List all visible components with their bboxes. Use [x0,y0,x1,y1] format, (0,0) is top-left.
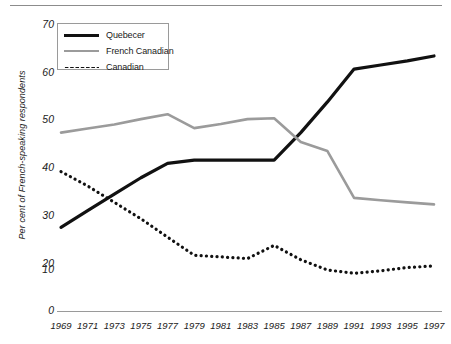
series-canadian [61,172,434,274]
series-quebecer [61,56,434,227]
legend-label-canadian: Canadian [106,62,144,72]
legend-label-french-canadian: French Canadian [106,46,174,56]
legend-item-canadian: Canadian [64,61,144,73]
legend-item-quebecer: Quebecer [64,29,145,41]
y-tick-label-10: 10 [28,263,54,275]
legend-label-quebecer: Quebecer [106,30,145,40]
legend: Quebecer French Canadian Canadian [57,23,169,70]
legend-item-french-canadian: French Canadian [64,45,174,57]
solid-gray-line-icon [64,46,99,57]
solid-black-line-icon [64,30,99,41]
chart-figure: Per cent of French-speaking respondents … [0,0,451,344]
x-tick-label-1997: 1997 [417,320,451,331]
dotted-black-line-icon [64,62,99,73]
y-tick-label-0: 0 [28,304,54,316]
